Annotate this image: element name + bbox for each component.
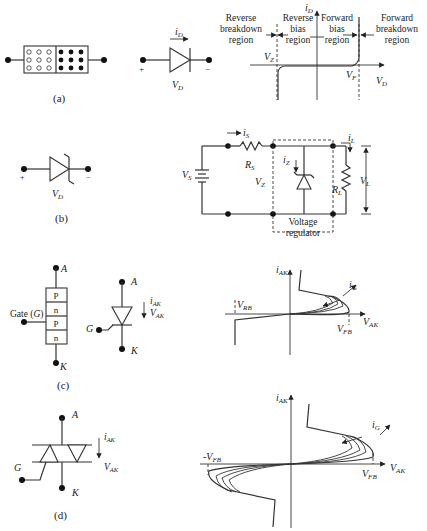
svg-text:regulator: regulator [286,228,321,238]
svg-text:-VFB: -VFB [203,451,222,464]
svg-text:iS: iS [243,127,250,140]
panel-c: P n P n A K Gate (G) A K G iAK VAK [10,263,378,392]
vz-label: VZ [264,51,274,64]
svg-text:bias: bias [329,24,345,34]
svg-text:Reverse: Reverse [283,13,314,23]
vf-label: VF [346,69,357,82]
zener-regulator-circuit: iS RS VS VZ iZ iL RL VL Voltage regulato… [182,127,371,238]
svg-text:VRB: VRB [237,299,252,312]
svg-text:VAK: VAK [363,316,378,329]
svg-text:breakdown: breakdown [220,24,262,34]
regulator-label: Voltage [289,217,318,227]
svg-text:iAK: iAK [276,392,288,405]
svg-text:VAK: VAK [104,462,119,473]
svg-text:Forward: Forward [381,13,413,23]
triac-iv-chart: iAK VAK -VFB VFB iG [200,392,405,528]
svg-text:K: K [71,487,80,498]
caption-c: (c) [57,379,70,392]
pnpn-structure: P n P n A K Gate (G) [10,263,68,372]
svg-text:region: region [385,35,410,45]
svg-text:region: region [325,35,350,45]
diode-iv-chart: iD VD VZ VF Reverse breakdown region Rev… [220,2,418,100]
svg-text:Reverse: Reverse [226,13,257,23]
gate-label: Gate (G) [10,309,44,320]
caption-a: (a) [53,92,66,105]
svg-text:Forward: Forward [321,13,353,23]
diode-voltage-label: VD [172,79,183,92]
svg-text:VAK: VAK [390,462,405,475]
scr-iv-chart: iAK VAK VRB VFB iG [225,264,378,355]
plus-sign: + [20,173,25,182]
svg-text:RS: RS [244,159,255,172]
pn-junction-block [5,46,107,73]
svg-text:bias: bias [290,24,306,34]
plus-sign: + [139,64,144,74]
svg-text:iAK: iAK [104,432,116,443]
caption-b: (b) [55,212,68,225]
svg-text:A: A [71,409,79,420]
caption-d: (d) [54,509,67,522]
region-labels: Reverse breakdown region Reverse bias re… [220,13,418,45]
svg-text:G: G [14,462,21,473]
minus-sign: − [205,64,210,74]
svg-text:n: n [54,305,59,315]
svg-text:P: P [53,319,58,329]
svg-text:iZ: iZ [283,154,290,167]
svg-text:VL: VL [360,175,370,188]
semiconductor-devices-figure: iD VD + − (a) iD VD VZ VF [0,0,427,531]
svg-text:n: n [54,333,59,343]
scr-symbol: A K G iAK VAK [86,276,165,356]
svg-text:A: A [60,263,68,274]
triac-symbol: A K G iAK VAK [14,409,119,498]
svg-text:region: region [229,35,254,45]
svg-text:VS: VS [182,169,192,182]
svg-text:region: region [286,35,311,45]
svg-text:P: P [53,291,58,301]
svg-text:iG: iG [372,419,380,432]
svg-text:VZ: VZ [255,176,265,189]
svg-text:breakdown: breakdown [376,24,418,34]
panel-d: A K G iAK VAK (d) iAK VAK [14,392,405,528]
svg-text:VAK: VAK [150,308,165,319]
svg-text:iAK: iAK [276,264,288,277]
svg-text:K: K [130,345,139,356]
panel-b: + − VD (b) [20,127,371,238]
panel-a: iD VD + − (a) iD VD VZ VF [5,2,418,105]
diode-symbol: iD VD + − [139,26,212,92]
svg-text:G: G [86,323,93,334]
x-axis-label: VD [376,75,387,88]
minus-sign: − [86,173,91,182]
zener-voltage-label: VD [52,188,63,201]
svg-text:iAK: iAK [150,296,162,307]
diode-current-label: iD [175,26,183,39]
svg-text:VFB: VFB [337,323,352,336]
svg-text:K: K [59,361,68,372]
svg-text:VFB: VFB [362,468,377,481]
zener-diode-symbol: + − VD [20,154,91,201]
svg-text:A: A [130,276,138,287]
